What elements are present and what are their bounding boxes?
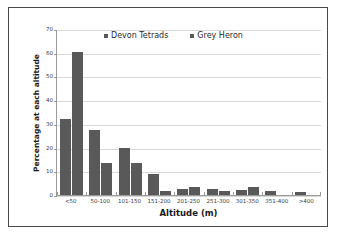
- x-tick-label: 151-200: [144, 199, 173, 205]
- x-tick-label: <50: [56, 199, 85, 205]
- bar: [160, 191, 171, 195]
- x-tick-label: 101-150: [115, 199, 144, 205]
- y-tick-label: 50: [46, 75, 53, 81]
- bar: [148, 174, 159, 195]
- bar-group: [292, 30, 321, 195]
- chart-page: Percentage at each altitude Devon Tetrad…: [0, 0, 337, 236]
- x-tick-label: 201-250: [174, 199, 203, 205]
- x-tick-label: 301-350: [233, 199, 262, 205]
- bar: [60, 119, 71, 195]
- bar-group: [233, 30, 262, 195]
- y-tick-mark: [54, 196, 57, 197]
- y-tick-label: 0: [50, 193, 54, 199]
- bar-group: [57, 30, 86, 195]
- bar: [265, 191, 276, 195]
- y-axis-title: Percentage at each altitude: [31, 30, 43, 196]
- bar: [189, 187, 200, 195]
- bar: [236, 190, 247, 195]
- x-tick-label: 50-100: [85, 199, 114, 205]
- bar: [177, 189, 188, 195]
- bar-group: [262, 30, 291, 195]
- x-tick-label: 251-300: [203, 199, 232, 205]
- bar-group: [86, 30, 115, 195]
- bar-group: [145, 30, 174, 195]
- x-tick-mark: [262, 192, 263, 195]
- y-tick-label: 20: [46, 146, 53, 152]
- x-tick-mark: [86, 192, 87, 195]
- x-axis-title: Altitude (m): [56, 209, 321, 218]
- x-tick-label: >400: [292, 199, 321, 205]
- bar: [248, 187, 259, 195]
- y-tick-label: 10: [46, 170, 53, 176]
- bar: [101, 163, 112, 195]
- bar: [131, 163, 142, 195]
- x-tick-mark: [116, 192, 117, 195]
- x-tick-mark: [320, 192, 321, 195]
- bar-group: [174, 30, 203, 195]
- x-tick-mark: [292, 192, 293, 195]
- x-tick-mark: [57, 192, 58, 195]
- bar-group: [204, 30, 233, 195]
- x-tick-mark: [145, 192, 146, 195]
- y-tick-label: 30: [46, 122, 53, 128]
- y-axis-title-container: Percentage at each altitude: [31, 196, 43, 236]
- gridline: [57, 196, 321, 197]
- bar: [72, 52, 83, 195]
- y-tick-label: 60: [46, 51, 53, 57]
- x-axis-tick-labels: <5050-100101-150151-200201-250251-300301…: [56, 199, 321, 205]
- chart-frame: Percentage at each altitude Devon Tetrad…: [8, 7, 328, 227]
- y-tick-label: 70: [46, 27, 53, 33]
- bar: [207, 189, 218, 195]
- x-tick-label: 351-400: [262, 199, 291, 205]
- bars-layer: [57, 30, 321, 195]
- bar-group: [116, 30, 145, 195]
- bar: [89, 130, 100, 195]
- bar: [295, 192, 306, 195]
- plot-area: 010203040506070: [56, 30, 321, 196]
- bar: [219, 191, 230, 195]
- y-tick-label: 40: [46, 98, 53, 104]
- x-tick-mark: [204, 192, 205, 195]
- bar: [119, 148, 130, 195]
- x-tick-mark: [174, 192, 175, 195]
- x-tick-mark: [233, 192, 234, 195]
